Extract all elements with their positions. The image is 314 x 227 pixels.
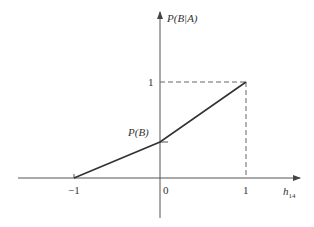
x-axis-label-subscript: 14 — [289, 192, 297, 200]
x-axis-label: h14 — [283, 185, 296, 200]
x-tick-pos-label: 1 — [243, 184, 249, 196]
origin-label: 0 — [163, 184, 169, 196]
y-tick-one-label: 1 — [148, 76, 154, 88]
x-tick-neg-label: −1 — [68, 184, 80, 196]
y-axis-label: P(B|A) — [166, 12, 198, 25]
y-intercept-label: P(B) — [127, 126, 149, 139]
diagram-canvas: P(B|A) 1 P(B) −1 0 1 h14 — [0, 0, 314, 227]
